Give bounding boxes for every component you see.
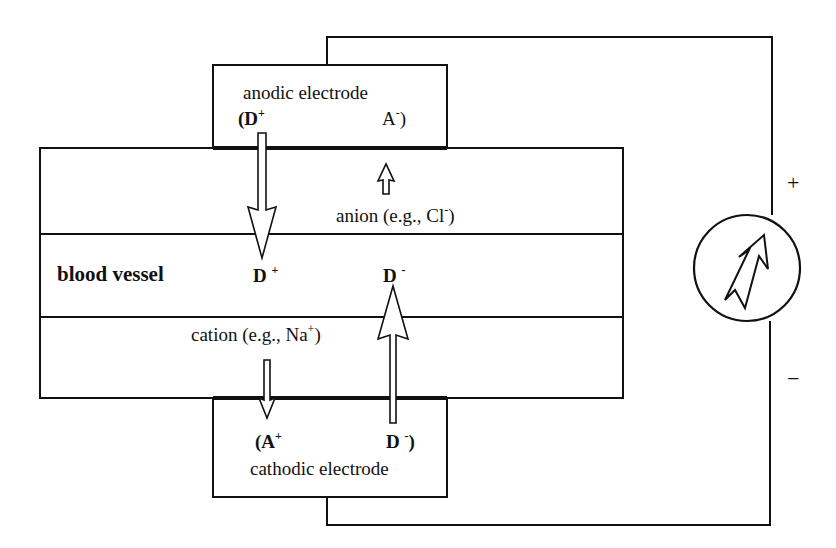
anode-d-plus-label: (D+ [238,109,265,128]
cathode-a-plus-label: (A+ [255,432,282,451]
anodic-electrode [213,65,447,148]
cation-label: cation (e.g., Na+) [191,325,321,344]
vessel-d-plus-label: D + [253,266,278,285]
anion-label: anion (e.g., Cl-) [336,206,455,225]
negative-terminal-label: − [787,368,799,390]
positive-terminal-label: + [787,172,799,194]
cathodic-electrode-label: cathodic electrode [250,459,389,478]
cathode-d-minus-label: D -) [386,432,415,451]
vessel-d-minus-label: D - [383,266,405,285]
anodic-electrode-label: anodic electrode [243,83,368,102]
anode-a-minus-label: A-) [382,109,406,128]
blood-vessel-label: blood vessel [57,264,164,285]
